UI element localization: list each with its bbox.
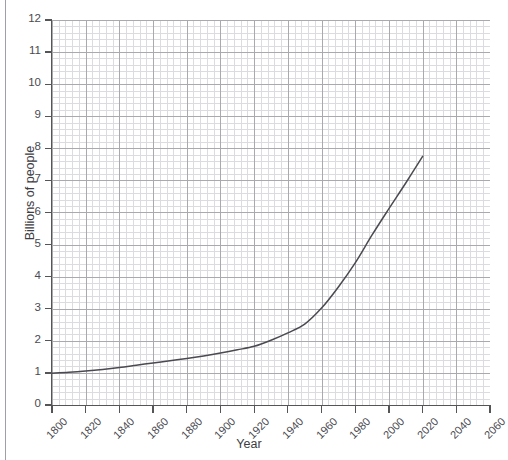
y-tick-mark — [45, 19, 52, 20]
x-tick-mark — [119, 406, 120, 413]
page-edge-rule — [5, 0, 6, 460]
y-tick-mark — [45, 276, 52, 277]
x-tick-mark — [152, 406, 153, 413]
x-tick-mark — [489, 406, 490, 413]
x-tick-mark — [254, 406, 255, 413]
x-tick-mark — [456, 406, 457, 413]
x-tick-mark — [321, 406, 322, 413]
x-tick-mark — [220, 406, 221, 413]
x-tick-mark — [186, 406, 187, 413]
world-population-line — [52, 156, 423, 373]
data-line-svg — [52, 20, 490, 405]
y-tick-label: 2 — [0, 333, 41, 345]
x-tick-mark — [355, 406, 356, 413]
y-tick-mark — [45, 212, 52, 213]
cropped-title-text: ·· · ··· ·· ···· — [60, 0, 138, 4]
y-tick-label: 1 — [0, 365, 41, 377]
cropped-title-artifacts: ·· · ··· ·· ···· — [60, 0, 460, 7]
x-tick-mark — [422, 406, 423, 413]
y-tick-mark — [45, 372, 52, 373]
y-tick-label: 0 — [0, 397, 41, 409]
y-tick-mark — [45, 148, 52, 149]
y-tick-label: 3 — [0, 301, 41, 313]
y-tick-mark — [45, 51, 52, 52]
x-axis-line — [51, 405, 491, 406]
y-tick-label: 12 — [0, 12, 41, 24]
x-tick-mark — [287, 406, 288, 413]
x-tick-mark — [388, 406, 389, 413]
y-tick-mark — [45, 308, 52, 309]
x-tick-mark — [51, 406, 52, 413]
plot-area — [52, 20, 490, 405]
y-tick-mark — [45, 84, 52, 85]
y-tick-mark — [45, 244, 52, 245]
x-axis-title: Year — [199, 437, 299, 451]
y-tick-mark — [45, 340, 52, 341]
y-tick-label: 11 — [0, 44, 41, 56]
y-tick-mark — [45, 180, 52, 181]
y-tick-mark — [45, 116, 52, 117]
x-tick-mark — [85, 406, 86, 413]
y-tick-label: 10 — [0, 76, 41, 88]
y-axis-title: Billions of people — [23, 113, 37, 273]
